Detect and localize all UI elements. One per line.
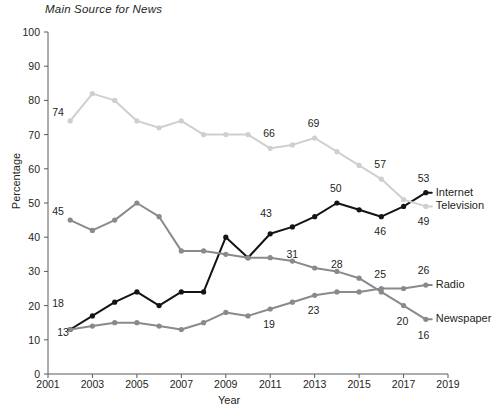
data-label-radio-2011: 19 [263,318,275,330]
data-label-television-2013: 69 [308,117,320,129]
data-label-radio-2018: 26 [418,264,430,276]
series-internet [68,190,429,332]
data-label-newspaper-2018: 16 [418,329,430,341]
series-label-internet: Internet [436,186,473,198]
data-label-newspaper-2014: 28 [331,258,343,270]
data-label-radio-2013: 23 [308,304,320,316]
data-label-internet-2018: 53 [418,172,430,184]
data-label-television-2018: 49 [418,215,430,227]
data-label-internet-2011: 43 [260,207,272,219]
data-label-newspaper-2002: 45 [52,205,64,217]
series-label-television: Television [436,199,484,211]
series-newspaper [68,200,429,322]
data-label-newspaper-2002: 18 [52,297,64,309]
data-label-internet-2016: 46 [374,225,386,237]
line-chart: Main Source for News Percentage Year 010… [0,0,497,416]
data-label-television-2011: 66 [263,127,275,139]
series-label-newspaper: Newspaper [436,312,492,324]
data-label-newspaper-2012: 31 [286,248,298,260]
data-label-newspaper-2017: 20 [397,315,409,327]
data-label-internet-2002: 13 [57,326,69,338]
series-radio [68,283,429,333]
series-layer [68,91,432,332]
chart-axes [44,32,448,378]
data-label-television-2016: 57 [374,158,386,170]
plot-area [0,0,497,416]
data-label-internet-2014: 50 [330,182,342,194]
data-label-television-2002: 74 [52,106,64,118]
data-label-radio-2016: 25 [374,268,386,280]
series-label-radio: Radio [436,278,465,290]
series-television [68,91,429,209]
